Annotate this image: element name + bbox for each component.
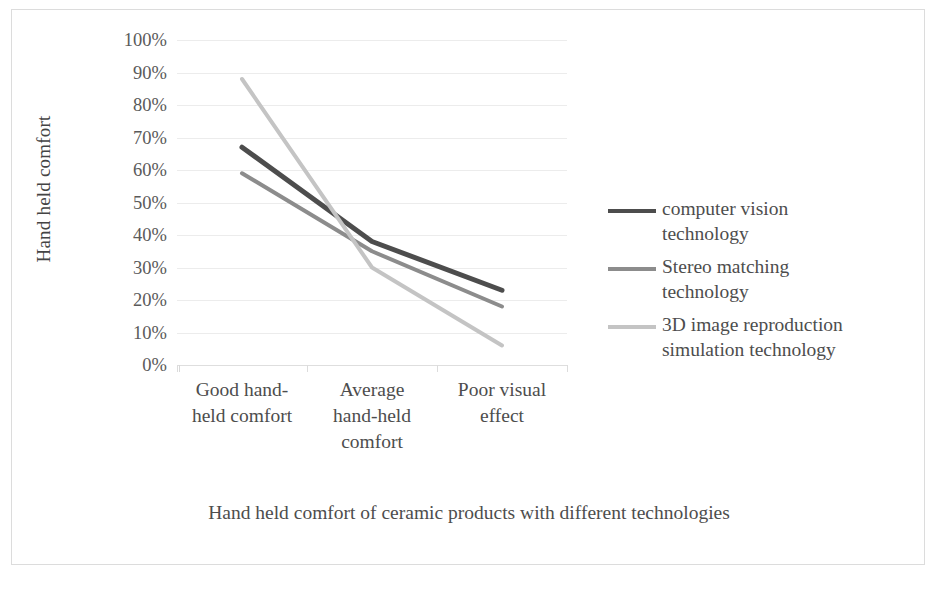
- x-category-label: Averagehand-heldcomfort: [297, 377, 447, 455]
- legend-label: computer visiontechnology: [662, 196, 926, 247]
- legend-label-line: computer vision: [662, 196, 926, 221]
- legend-label-line: 3D image reproduction: [662, 312, 926, 337]
- legend-label: 3D image reproductionsimulation technolo…: [662, 312, 926, 363]
- x-category-label: Poor visualeffect: [427, 377, 577, 429]
- x-category-label: Good hand-held comfort: [167, 377, 317, 429]
- legend-color-swatch: [608, 209, 656, 213]
- legend-entry[interactable]: 3D image reproductionsimulation technolo…: [608, 312, 926, 364]
- legend-label-line: simulation technology: [662, 337, 926, 362]
- x-category-label-line: Good hand-: [167, 377, 317, 403]
- legend-label-line: technology: [662, 279, 926, 304]
- plot-region: Hand held comfort 100%90%80%70%60%50%40%…: [12, 10, 926, 566]
- legend-entry[interactable]: Stereo matchingtechnology: [608, 254, 926, 306]
- legend-label: Stereo matchingtechnology: [662, 254, 926, 305]
- x-category-label-line: held comfort: [167, 403, 317, 429]
- legend-label-line: technology: [662, 221, 926, 246]
- x-tick-mark: [437, 365, 438, 372]
- series-line: [242, 79, 502, 346]
- x-category-label-line: Poor visual: [427, 377, 577, 403]
- chart-frame: Hand held comfort 100%90%80%70%60%50%40%…: [11, 9, 925, 565]
- x-category-label-line: hand-held: [297, 403, 447, 429]
- x-category-label-line: comfort: [297, 429, 447, 455]
- legend-color-swatch: [608, 267, 656, 271]
- chart-legend: computer visiontechnologyStereo matching…: [608, 196, 926, 370]
- x-category-label-line: Average: [297, 377, 447, 403]
- x-tick-mark: [177, 365, 178, 372]
- x-category-label-line: effect: [427, 403, 577, 429]
- chart-title: Hand held comfort of ceramic products wi…: [12, 502, 926, 524]
- x-tick-mark: [307, 365, 308, 372]
- legend-color-swatch: [608, 325, 656, 329]
- x-tick-mark: [567, 365, 568, 372]
- legend-entry[interactable]: computer visiontechnology: [608, 196, 926, 248]
- legend-label-line: Stereo matching: [662, 254, 926, 279]
